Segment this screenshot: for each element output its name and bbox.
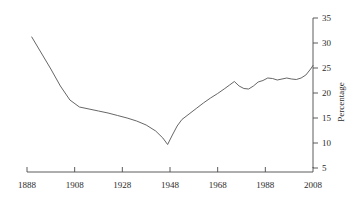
x-axis-tick-label: 1948 [161, 180, 179, 190]
y-axis-tick-label: 10 [322, 138, 331, 148]
x-axis-tick-label: 1908 [66, 180, 84, 190]
y-axis-tick-label: 15 [322, 113, 331, 123]
line-chart: 1888190819281948196819882008 51015202530… [0, 0, 362, 205]
x-axis-tick-label: 1968 [209, 180, 227, 190]
y-axis-tick-label: 35 [322, 13, 331, 23]
y-axis [313, 18, 318, 168]
y-axis-tick-label: 25 [322, 63, 331, 73]
y-axis-title: Percentage [336, 82, 346, 121]
y-axis-tick-label: 30 [322, 38, 331, 48]
x-axis-ticks [27, 167, 313, 172]
y-axis-ticks [313, 18, 318, 168]
x-axis-tick-label: 1988 [256, 180, 274, 190]
y-axis-tick-label: 5 [322, 163, 327, 173]
x-axis-tick-label: 2008 [304, 180, 322, 190]
x-axis-tick-label: 1888 [18, 180, 36, 190]
x-axis [27, 167, 313, 172]
chart-plot-area [0, 0, 362, 205]
y-axis-tick-label: 20 [322, 88, 331, 98]
x-axis-tick-label: 1928 [113, 180, 131, 190]
data-series-line [32, 37, 313, 145]
